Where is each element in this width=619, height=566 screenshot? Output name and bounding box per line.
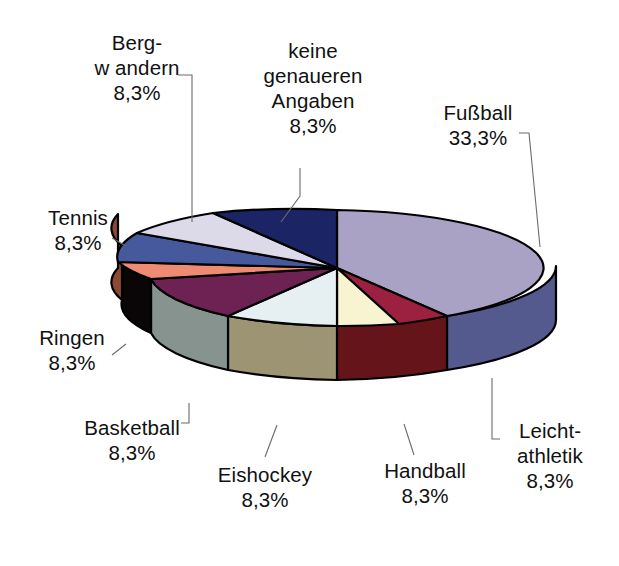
slice-label-leichtathletik: Leicht- athletik 8,3% [490,418,610,493]
label-line: athletik [490,443,610,468]
slice-label-eishockey: Eishockey 8,3% [190,462,340,512]
label-percent: 8,3% [12,350,132,375]
slice-label-fussball: Fußball 33,3% [408,100,548,150]
label-line: Tennis [18,205,138,230]
label-percent: 8,3% [62,80,212,105]
leader-line-handball [404,424,414,455]
slice-label-tennis: Tennis 8,3% [18,205,138,255]
label-line: Eishockey [190,462,340,487]
label-percent: 33,3% [408,125,548,150]
label-percent: 8,3% [355,483,495,508]
label-line: keine [228,38,398,63]
label-line: Ringen [12,325,132,350]
label-percent: 8,3% [190,487,340,512]
label-line: w andern [62,55,212,80]
slice-label-ringen: Ringen 8,3% [12,325,132,375]
leader-line-eishockey [265,425,277,457]
label-line: Fußball [408,100,548,125]
slice-label-bergwandern: Berg- w andern 8,3% [62,30,212,105]
label-percent: 8,3% [18,230,138,255]
slice-label-basketball: Basketball 8,3% [52,415,212,465]
label-line: genaueren [228,63,398,88]
label-line: Basketball [52,415,212,440]
slice-label-handball: Handball 8,3% [355,458,495,508]
label-line: Handball [355,458,495,483]
label-line: Berg- [62,30,212,55]
pie-chart: Berg- w andern 8,3% keine genaueren Anga… [0,0,619,566]
label-percent: 8,3% [228,113,398,138]
label-line: Leicht- [490,418,610,443]
leader-line-fussball [519,133,540,247]
label-percent: 8,3% [52,440,212,465]
slice-label-keine-angaben: keine genaueren Angaben 8,3% [228,38,398,138]
label-percent: 8,3% [490,468,610,493]
label-line: Angaben [228,88,398,113]
